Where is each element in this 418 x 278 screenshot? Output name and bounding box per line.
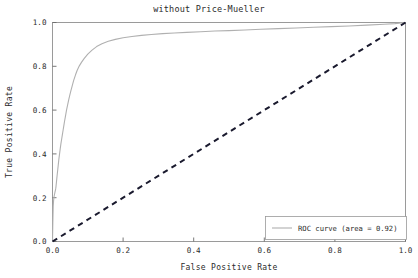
y-tick-label: 0.6 xyxy=(33,106,47,115)
x-tick-label: 0.6 xyxy=(257,246,271,255)
x-axis-title: False Positive Rate xyxy=(180,263,277,272)
legend-label-roc-curve: ROC curve (area = 0.92) xyxy=(298,224,398,233)
y-tick-label: 1.0 xyxy=(33,18,47,27)
x-axis-tick-labels: 0.00.20.40.60.81.0 xyxy=(46,246,413,255)
y-tick-label: 0.0 xyxy=(33,237,47,246)
x-tick-label: 0.2 xyxy=(116,246,130,255)
roc-chart-figure: without Price-Mueller 0.00.20.40.60.81.0… xyxy=(0,0,418,278)
y-tick-label: 0.8 xyxy=(33,62,47,71)
x-tick-label: 0.0 xyxy=(46,246,60,255)
y-axis-tick-labels: 0.00.20.40.60.81.0 xyxy=(33,18,47,246)
y-tick-label: 0.2 xyxy=(33,194,47,203)
chart-legend[interactable]: ROC curve (area = 0.92) xyxy=(266,217,407,240)
x-tick-label: 1.0 xyxy=(399,246,413,255)
x-tick-label: 0.4 xyxy=(187,246,201,255)
plot-canvas: 0.00.20.40.60.81.0 0.00.20.40.60.81.0 Fa… xyxy=(0,0,418,278)
y-tick-label: 0.4 xyxy=(33,150,47,159)
x-tick-label: 0.8 xyxy=(328,246,342,255)
y-axis-title: True Positive Rate xyxy=(5,86,14,178)
